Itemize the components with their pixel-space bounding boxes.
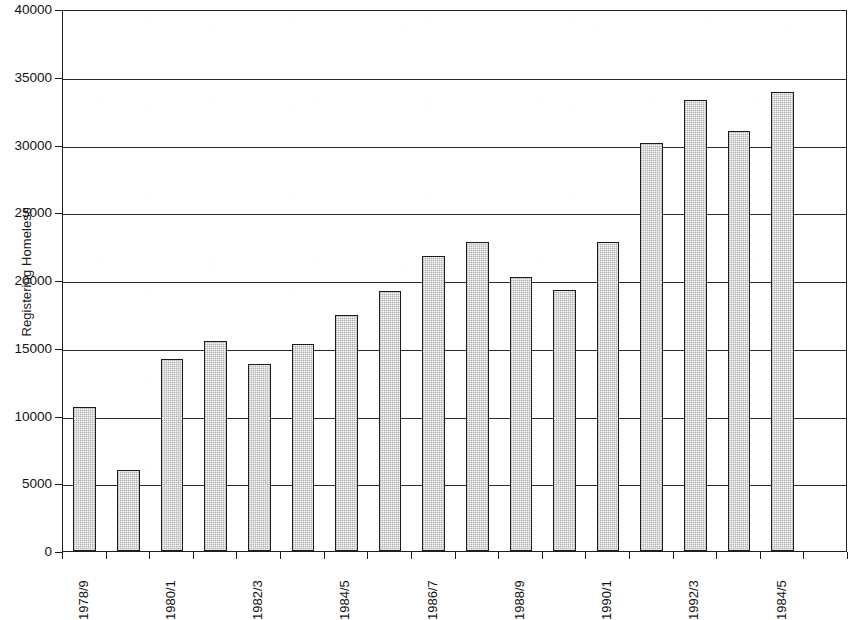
y-tick-mark <box>55 213 62 214</box>
y-tick-mark <box>55 349 62 350</box>
x-tick-label-text: 1988/9 <box>512 564 528 620</box>
x-tick-mark <box>498 552 499 559</box>
y-tick-label: 30000 <box>14 139 52 153</box>
x-tick-mark <box>847 552 848 559</box>
y-tick-label: 15000 <box>14 342 52 356</box>
x-axis: 1978/91980/11982/31984/51986/71988/91990… <box>62 552 847 612</box>
y-tick-label: 35000 <box>14 71 52 85</box>
bar <box>292 344 315 551</box>
x-tick-mark <box>716 552 717 559</box>
x-tick-mark <box>193 552 194 559</box>
x-tick-label-text: 1984/5 <box>774 564 790 620</box>
x-tick-mark <box>324 552 325 559</box>
y-tick-label: 0 <box>44 545 52 559</box>
x-tick-label-text: 1992/3 <box>686 564 702 620</box>
y-tick-mark <box>55 552 62 553</box>
x-tick-mark <box>760 552 761 559</box>
x-tick-mark <box>149 552 150 559</box>
bar <box>422 256 445 551</box>
x-tick-mark <box>411 552 412 559</box>
x-tick-mark <box>367 552 368 559</box>
x-tick-label-text: 1980/1 <box>163 564 179 620</box>
x-tick-label: 1986/7 <box>425 564 441 620</box>
y-tick-mark <box>55 10 62 11</box>
bar <box>640 143 663 551</box>
x-tick-label: 1982/3 <box>250 564 266 620</box>
y-tick-mark <box>55 281 62 282</box>
bar <box>379 291 402 551</box>
bars-layer <box>63 11 846 551</box>
x-tick-mark <box>585 552 586 559</box>
x-tick-label: 1978/9 <box>76 564 92 620</box>
y-tick-label: 10000 <box>14 410 52 424</box>
bar <box>510 277 533 551</box>
x-tick-mark <box>629 552 630 559</box>
y-tick-label: 20000 <box>14 274 52 288</box>
y-tick-label: 5000 <box>22 477 52 491</box>
y-tick-mark <box>55 146 62 147</box>
y-tick-mark <box>55 484 62 485</box>
x-tick-mark <box>673 552 674 559</box>
bar <box>161 359 184 551</box>
x-tick-label: 1992/3 <box>686 564 702 620</box>
x-tick-mark <box>62 552 63 559</box>
x-tick-label-text: 1982/3 <box>250 564 266 620</box>
x-tick-label-text: 1984/5 <box>337 564 353 620</box>
y-tick-label: 25000 <box>14 206 52 220</box>
x-tick-mark <box>106 552 107 559</box>
bar <box>728 131 751 551</box>
bar <box>771 92 794 551</box>
bar <box>204 341 227 551</box>
bar <box>553 290 576 552</box>
y-tick-mark <box>55 417 62 418</box>
bar <box>597 242 620 551</box>
x-tick-mark <box>803 552 804 559</box>
bar <box>73 407 96 551</box>
x-tick-label: 1984/5 <box>774 564 790 620</box>
x-tick-label: 1984/5 <box>337 564 353 620</box>
x-tick-mark <box>280 552 281 559</box>
y-axis-ticks: 4000035000300002500020000150001000050000 <box>0 0 62 612</box>
y-tick-label: 40000 <box>14 3 52 17</box>
bar <box>248 364 271 551</box>
x-tick-label-text: 1978/9 <box>76 564 92 620</box>
x-tick-mark <box>236 552 237 559</box>
plot-area <box>62 10 847 552</box>
y-tick-mark <box>55 78 62 79</box>
x-tick-label-text: 1986/7 <box>425 564 441 620</box>
bar <box>684 100 707 551</box>
x-tick-label: 1990/1 <box>599 564 615 620</box>
bar <box>335 315 358 551</box>
x-tick-label: 1988/9 <box>512 564 528 620</box>
x-tick-mark <box>542 552 543 559</box>
x-tick-label: 1980/1 <box>163 564 179 620</box>
x-tick-label-text: 1990/1 <box>599 564 615 620</box>
bar <box>466 242 489 551</box>
x-tick-mark <box>455 552 456 559</box>
bar <box>117 470 140 551</box>
